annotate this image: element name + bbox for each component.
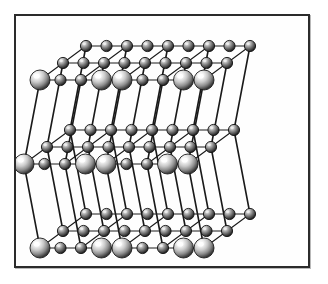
bond-vertical [234,130,250,214]
sphere-highlight [177,242,183,247]
atom-large-sphere [30,70,50,90]
sphere-highlight [87,127,90,130]
atom-small-sphere [57,57,68,68]
sphere-highlight [144,43,147,46]
sphere-highlight [198,74,204,79]
atom-large-sphere [174,238,194,258]
atom-small-sphere [203,208,214,219]
sphere-highlight [162,228,165,231]
sphere-highlight [82,211,85,214]
sphere-highlight [59,228,62,231]
sphere-highlight [116,242,122,247]
atom-large-sphere [92,70,112,90]
sphere-highlight [182,158,188,163]
sphere-highlight [141,228,144,231]
sphere-highlight [143,161,146,164]
sphere-highlight [82,43,85,46]
atom-small-sphere [123,141,134,152]
sphere-highlight [121,60,124,63]
sphere-highlight [103,43,106,46]
atom-small-sphere [157,74,168,85]
sphere-highlight [162,60,165,63]
atom-small-sphere [55,74,66,85]
atom-small-sphere [183,208,194,219]
atom-large-sphere [112,238,132,258]
sphere-highlight [77,245,80,248]
bond-vertical [47,147,63,231]
atom-small-sphere [160,225,171,236]
atom-small-sphere [119,57,130,68]
sphere-highlight [223,60,226,63]
sphere-highlight [128,127,131,130]
sphere-highlight [77,77,80,80]
sphere-highlight [116,74,122,79]
sphere-highlight [185,211,188,214]
sphere-highlight [43,144,46,147]
atom-large-sphere [194,238,214,258]
sphere-highlight [100,60,103,63]
atom-small-sphere [228,124,239,135]
sphere-highlight [164,211,167,214]
sphere-highlight [59,60,62,63]
sphere-highlight [182,60,185,63]
sphere-highlight [169,127,172,130]
sphere-highlight [226,43,229,46]
atom-large-sphere [174,70,194,90]
sphere-highlight [159,77,162,80]
sphere-highlight [139,245,142,248]
sphere-highlight [205,43,208,46]
atom-small-sphere [180,225,191,236]
sphere-highlight [61,161,64,164]
sphere-highlight [125,144,128,147]
atom-small-sphere [141,158,152,169]
bond-vertical [211,147,227,231]
atom-small-sphere [187,124,198,135]
atom-small-sphere [101,208,112,219]
atom-small-sphere [208,124,219,135]
bond-vertical [24,80,40,164]
atom-small-sphere [185,141,196,152]
atom-small-sphere [98,57,109,68]
sphere-highlight [139,77,142,80]
sphere-highlight [100,228,103,231]
sphere-highlight [95,74,101,79]
atom-small-sphere [78,225,89,236]
atom-large-sphere [14,154,34,174]
sphere-highlight [107,127,110,130]
atom-large-sphere [76,154,96,174]
sphere-highlight [123,211,126,214]
atom-small-sphere [224,40,235,51]
atom-small-sphere [101,40,112,51]
atom-small-sphere [201,225,212,236]
sphere-highlight [66,127,69,130]
atom-small-sphere [62,141,73,152]
atom-small-sphere [244,40,255,51]
sphere-highlight [103,211,106,214]
atom-small-sphere [98,225,109,236]
sphere-highlight [146,144,149,147]
sphere-highlight [41,161,44,164]
atom-small-sphere [224,208,235,219]
atom-large-sphere [112,70,132,90]
sphere-highlight [144,211,147,214]
atom-small-sphere [80,208,91,219]
sphere-highlight [80,228,83,231]
sphere-highlight [210,127,213,130]
atom-small-sphere [41,141,52,152]
atom-large-sphere [92,238,112,258]
atom-small-sphere [221,57,232,68]
atom-small-sphere [162,40,173,51]
sphere-highlight [177,74,183,79]
atom-small-sphere [121,158,132,169]
atom-small-sphere [157,242,168,253]
sphere-highlight [185,43,188,46]
sphere-highlight [105,144,108,147]
sphere-highlight [79,158,85,163]
sphere-highlight [164,43,167,46]
sphere-highlight [205,211,208,214]
atom-small-sphere [103,141,114,152]
crystal-lattice-diagram [0,0,328,284]
sphere-highlight [187,144,190,147]
atom-small-sphere [162,208,173,219]
sphere-highlight [159,245,162,248]
